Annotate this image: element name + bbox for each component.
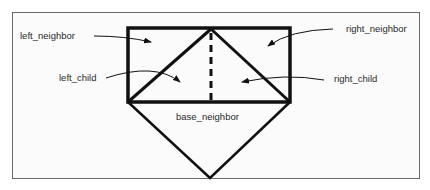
left-neighbor-arrow (94, 36, 151, 42)
label-right-child: right_child (334, 73, 377, 84)
neighbor-rectangle (128, 28, 290, 102)
right-child-arrow (242, 77, 324, 82)
label-left-neighbor: left_neighbor (20, 30, 75, 41)
right-neighbor-arrow (268, 29, 333, 46)
label-base-neighbor: base_neighbor (176, 111, 239, 122)
label-left-child: left_child (59, 72, 97, 83)
left-child-arrow (106, 71, 180, 82)
label-right-neighbor: right_neighbor (346, 23, 407, 34)
